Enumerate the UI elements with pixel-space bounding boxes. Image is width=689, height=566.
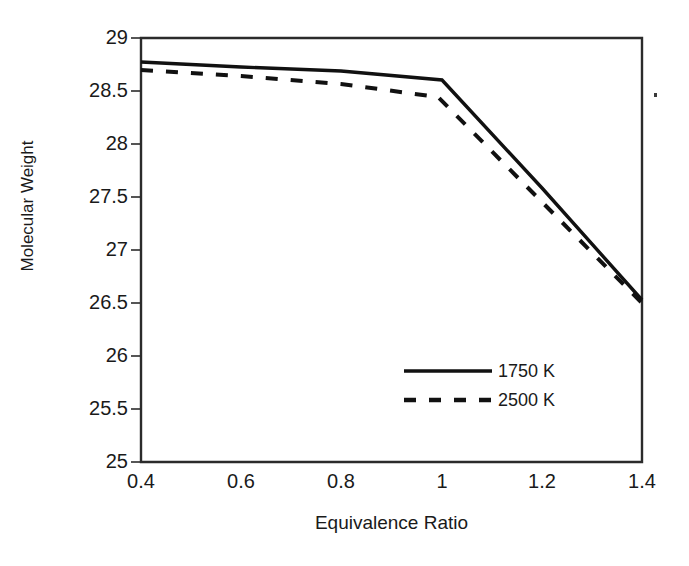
x-axis-title: Equivalence Ratio <box>141 512 642 534</box>
series-2500k-line <box>141 70 641 302</box>
plot-frame <box>141 38 642 462</box>
y-axis-title: Molecular Weight <box>18 116 38 296</box>
legend-label-1750k: 1750 K <box>498 361 555 382</box>
y-axis-ticks <box>131 38 141 462</box>
series-1750k-line <box>141 62 642 300</box>
scan-speck <box>654 93 657 97</box>
legend-label-2500k: 2500 K <box>498 390 555 411</box>
chart-figure: Molecular Weight Equivalence Ratio 29 28… <box>0 0 689 566</box>
